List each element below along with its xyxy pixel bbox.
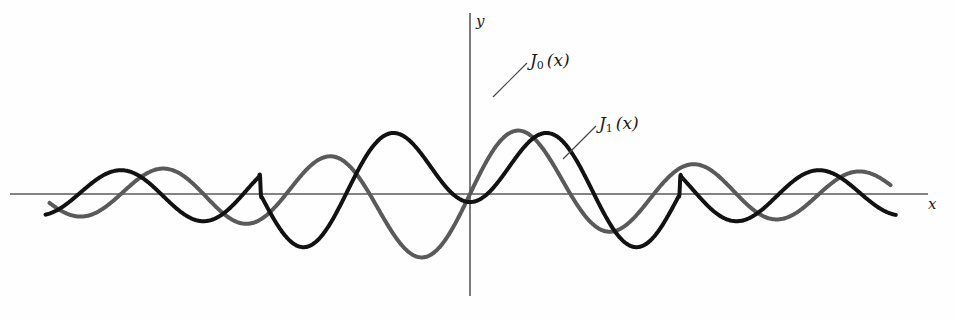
y-axis-label: y	[476, 14, 484, 29]
bessel-function-figure: y x J0(x) J1(x)	[0, 0, 955, 321]
curve-label-j0-order: 0	[537, 59, 545, 72]
curve-label-j0: J0(x)	[530, 52, 570, 69]
curve-label-j1-order: 1	[606, 122, 614, 135]
leader-line-j1	[563, 126, 596, 159]
plot-canvas	[0, 0, 955, 321]
curve-label-j1-base: J	[599, 113, 606, 133]
curve-label-j0-base: J	[530, 50, 537, 70]
curve-label-j1-arg: (x)	[614, 113, 639, 133]
leader-line-j0	[493, 63, 527, 97]
axes-group	[10, 13, 928, 296]
leader-lines-group	[493, 63, 596, 159]
x-axis-label: x	[928, 197, 936, 212]
curve-label-j0-arg: (x)	[545, 50, 570, 70]
curve-label-j1: J1(x)	[599, 115, 639, 132]
